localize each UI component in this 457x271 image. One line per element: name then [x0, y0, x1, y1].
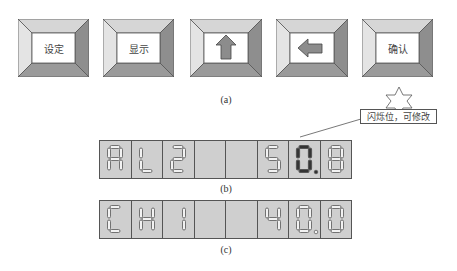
seven-segment-digit [132, 141, 163, 178]
seven-segment-digit [258, 201, 289, 238]
decimal-point [314, 230, 318, 234]
seven-segment-digit [321, 201, 352, 238]
digit-cell [163, 201, 195, 238]
display-b [99, 140, 352, 179]
button-up[interactable] [190, 19, 261, 77]
button-display[interactable]: 显示 [103, 19, 174, 77]
digit-cell [226, 141, 258, 178]
digit-cell [226, 201, 258, 238]
caption-b: (b) [220, 183, 232, 194]
digit-cell [132, 141, 164, 178]
digit-cell [321, 141, 352, 178]
seven-segment-digit [226, 141, 257, 178]
seven-segment-digit [258, 141, 289, 178]
button-left[interactable] [276, 19, 347, 77]
digit-cell [321, 201, 352, 238]
seven-segment-digit [100, 141, 131, 178]
digit-cell [289, 201, 321, 238]
seven-segment-digit [132, 201, 163, 238]
decimal-point [314, 170, 318, 174]
seven-segment-digit [289, 201, 320, 238]
display-c [99, 200, 352, 239]
callout-label: 闪烁位，可修改 [360, 109, 437, 124]
caption-c: (c) [220, 244, 231, 255]
caption-a: (a) [220, 94, 231, 105]
button-bezel [276, 19, 348, 77]
digit-cell [258, 141, 290, 178]
button-confirm[interactable]: 确认 [362, 19, 433, 77]
callout-leader-line [300, 119, 361, 137]
digit-cell [258, 201, 290, 238]
digit-cell [132, 201, 164, 238]
seven-segment-digit [163, 141, 194, 178]
digit-cell [289, 141, 321, 178]
seven-segment-digit [195, 201, 226, 238]
digit-cell [195, 141, 227, 178]
button-confirm-label: 确认 [376, 33, 419, 63]
button-set-label: 设定 [32, 33, 75, 63]
digit-cell [100, 141, 132, 178]
seven-segment-digit [100, 201, 131, 238]
button-bezel [190, 19, 262, 77]
digit-cell [195, 201, 227, 238]
digit-cell [163, 141, 195, 178]
seven-segment-digit [289, 141, 320, 178]
button-display-label: 显示 [117, 33, 160, 63]
button-set[interactable]: 设定 [18, 19, 89, 77]
seven-segment-digit [226, 201, 257, 238]
seven-segment-digit [321, 141, 352, 178]
seven-segment-digit [163, 201, 194, 238]
digit-cell [100, 201, 132, 238]
seven-segment-digit [195, 141, 226, 178]
